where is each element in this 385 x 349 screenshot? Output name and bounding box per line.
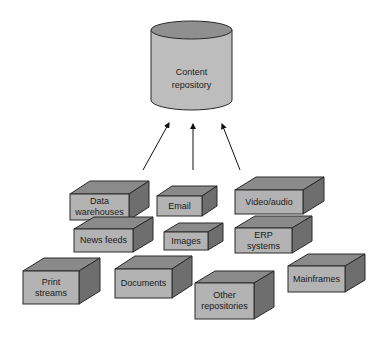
arrow-left xyxy=(143,123,169,170)
arrow-right xyxy=(222,124,240,170)
